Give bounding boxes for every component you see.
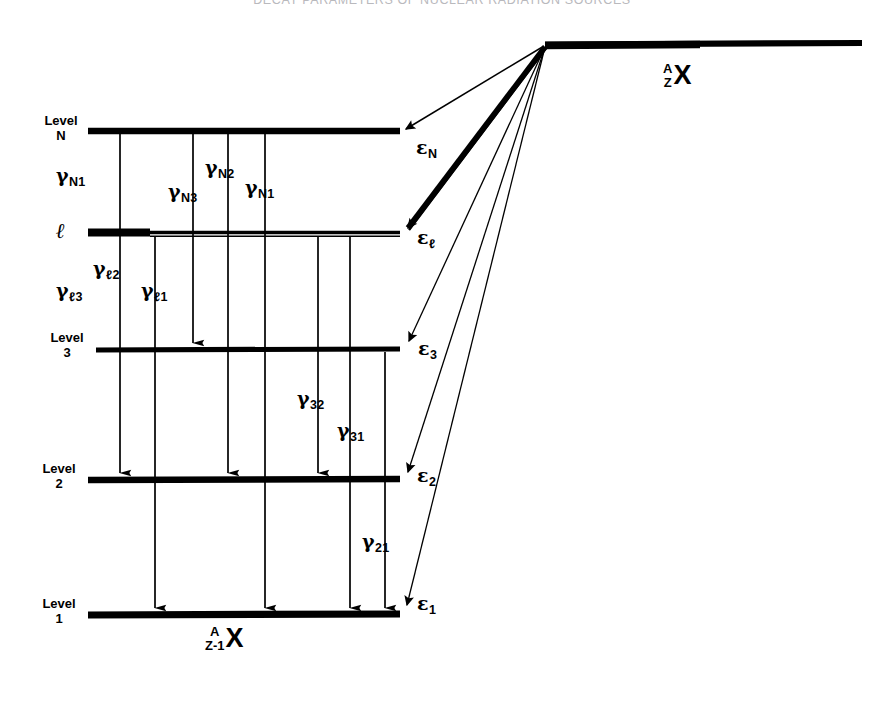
daughter-nuclide-indices: A Z-1 <box>205 625 225 652</box>
gamma-label-N1: γN1 <box>245 178 275 200</box>
daughter-atomic-number: Z-1 <box>205 639 225 653</box>
level-caption-2-word: Level <box>30 461 88 476</box>
gamma-label-N1-left: γN1 <box>56 166 86 188</box>
feeding-transition-2 <box>408 47 545 472</box>
gamma-label-N1-subscript: N1 <box>258 187 275 201</box>
feeding-transition-N <box>406 46 544 129</box>
parent-level-line <box>545 43 862 46</box>
energy-label-N-symbol: ε <box>416 136 428 158</box>
level-caption-1: Level 1 <box>30 596 88 627</box>
gamma-label-31: γ31 <box>337 421 365 443</box>
daughter-level-lines <box>88 131 400 615</box>
level-caption-l-num: ℓ <box>56 218 65 243</box>
gamma-label-l2: γℓ2 <box>93 259 120 281</box>
energy-label-1: ε1 <box>417 594 436 616</box>
gamma-label-21: γ21 <box>362 532 390 554</box>
feeding-transition-1 <box>407 47 545 605</box>
parent-nuclide-indices: A Z <box>663 62 672 89</box>
energy-label-2: ε2 <box>417 466 436 488</box>
energy-label-3-symbol: ε <box>418 337 430 359</box>
energy-label-3-subscript: 3 <box>430 348 437 362</box>
gamma-label-31-subscript: 31 <box>350 430 365 444</box>
decay-scheme-figure: DECAY PARAMETERS OF NUCLEAR RADIATION SO… <box>0 0 884 708</box>
level-caption-1-word: Level <box>30 596 88 611</box>
gamma-transitions <box>120 134 385 608</box>
gamma-label-l2-subscript: ℓ2 <box>106 268 120 282</box>
energy-label-2-symbol: ε <box>417 464 429 486</box>
gamma-label-l1-subscript: ℓ1 <box>154 290 168 304</box>
parent-element-symbol: X <box>673 60 691 90</box>
level-line-1 <box>88 614 400 615</box>
energy-label-l: εℓ <box>417 228 435 250</box>
energy-label-l-symbol: ε <box>417 226 429 248</box>
daughter-nuclide-symbol: A Z-1 X <box>205 625 244 652</box>
level-caption-l: ℓ <box>56 220 65 241</box>
feeding-transitions <box>406 46 546 605</box>
level-line-3 <box>96 349 400 350</box>
energy-label-l-subscript: ℓ <box>429 237 435 251</box>
level-caption-3: Level 3 <box>38 330 96 361</box>
gamma-label-N3-symbol: γ <box>168 180 181 202</box>
gamma-label-l1-symbol: γ <box>141 279 154 301</box>
gamma-label-N3-subscript: N3 <box>181 191 198 205</box>
level-caption-N: Level N <box>32 113 90 144</box>
gamma-label-l1: γℓ1 <box>141 281 168 303</box>
level-caption-2: Level 2 <box>30 461 88 492</box>
energy-label-1-symbol: ε <box>417 592 429 614</box>
gamma-label-21-subscript: 21 <box>375 541 390 555</box>
decay-scheme-artwork <box>0 0 884 708</box>
energy-label-N: εN <box>416 138 437 160</box>
energy-label-3: ε3 <box>418 339 437 361</box>
level-caption-1-num: 1 <box>30 611 88 626</box>
gamma-label-32-subscript: 32 <box>310 398 325 412</box>
parent-nuclide-symbol: A Z X <box>663 62 691 89</box>
gamma-label-N1-symbol: γ <box>245 176 258 198</box>
daughter-mass-number: A <box>210 625 219 639</box>
level-caption-3-num: 3 <box>38 345 96 360</box>
gamma-label-32: γ32 <box>297 389 325 411</box>
gamma-label-32-symbol: γ <box>297 387 310 409</box>
energy-label-N-subscript: N <box>428 147 437 161</box>
level-line-2 <box>88 479 400 480</box>
gamma-label-N1-left-symbol: γ <box>56 164 69 186</box>
energy-label-1-subscript: 1 <box>429 603 436 617</box>
level-caption-3-word: Level <box>38 330 96 345</box>
feeding-transition-3 <box>409 47 545 341</box>
parent-atomic-number: Z <box>664 76 672 90</box>
gamma-label-N2-symbol: γ <box>205 156 218 178</box>
gamma-label-N2: γN2 <box>205 158 235 180</box>
gamma-label-N3: γN3 <box>168 182 198 204</box>
gamma-label-N2-subscript: N2 <box>218 167 235 181</box>
gamma-label-l3-subscript: ℓ3 <box>69 290 83 304</box>
gamma-label-21-symbol: γ <box>362 530 375 552</box>
gamma-label-l2-symbol: γ <box>93 257 106 279</box>
gamma-label-l3: γℓ3 <box>56 281 83 303</box>
gamma-label-N1-left-subscript: N1 <box>69 175 86 189</box>
level-caption-N-num: N <box>32 128 90 143</box>
parent-mass-number: A <box>663 62 672 76</box>
level-caption-N-word: Level <box>32 113 90 128</box>
gamma-label-l3-symbol: γ <box>56 279 69 301</box>
energy-label-2-subscript: 2 <box>429 475 436 489</box>
gamma-label-31-symbol: γ <box>337 419 350 441</box>
level-caption-2-num: 2 <box>30 476 88 491</box>
daughter-element-symbol: X <box>226 623 244 653</box>
